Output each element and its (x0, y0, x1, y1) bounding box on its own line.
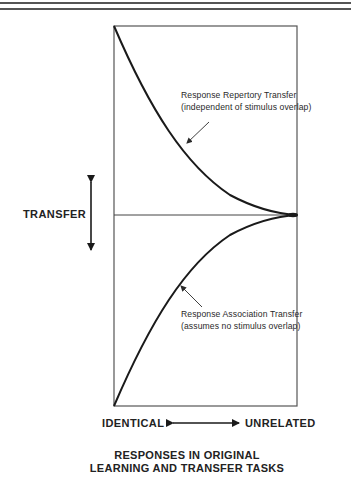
association-label-line1: Response Association Transfer (181, 310, 302, 319)
association-label-line2: (assumes no stimulus overlap) (181, 322, 300, 331)
transfer-label: TRANSFER (23, 209, 86, 220)
unrelated-label: UNRELATED (245, 418, 316, 429)
caption-line2: LEARNING AND TRANSFER TASKS (0, 462, 351, 475)
repertory-label-line2: (independent of stimulus overlap) (181, 103, 311, 112)
repertory-label-line1: Response Repertory Transfer (181, 91, 296, 100)
identical-label: IDENTICAL (102, 418, 164, 429)
transfer-diagram (0, 0, 351, 480)
response-repertory-curve (114, 26, 297, 215)
convergence-point (288, 213, 298, 217)
lower-label-pointer (181, 286, 202, 307)
caption-line1: RESPONSES IN ORIGINAL (0, 449, 351, 462)
upper-label-pointer (187, 122, 209, 143)
